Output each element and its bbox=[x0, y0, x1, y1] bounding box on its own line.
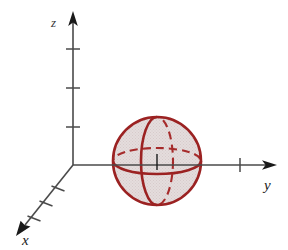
z-axis: z bbox=[50, 11, 80, 165]
x-axis: x bbox=[16, 165, 73, 248]
coordinate-system-diagram: z x bbox=[0, 0, 288, 250]
figure-canvas: z x bbox=[0, 0, 288, 250]
x-axis-label: x bbox=[21, 232, 29, 248]
x-axis-line bbox=[25, 165, 73, 225]
z-axis-label: z bbox=[50, 15, 56, 30]
y-axis-label: y bbox=[262, 177, 271, 193]
